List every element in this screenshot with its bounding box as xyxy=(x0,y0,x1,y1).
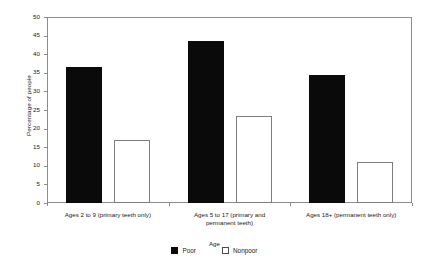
chart-legend: PoorNonpoor xyxy=(0,247,429,254)
x-axis-category-label-line: permanent teeth) xyxy=(157,219,303,227)
y-axis-tick: 40 xyxy=(0,54,47,55)
x-axis-title: Age xyxy=(0,240,429,247)
bar-poor-1 xyxy=(188,41,224,203)
y-axis-tick-mark xyxy=(44,17,47,18)
y-axis-tick-label: 45 xyxy=(33,31,40,39)
y-axis-tick-mark xyxy=(44,91,47,92)
legend-entry-nonpoor: Nonpoor xyxy=(222,247,258,254)
y-axis-tick: 20 xyxy=(0,129,47,130)
x-axis-tick-mark xyxy=(412,203,413,206)
y-axis-tick: 45 xyxy=(0,36,47,37)
bar-nonpoor-2 xyxy=(357,162,393,203)
y-axis-tick: 50 xyxy=(0,17,47,18)
bar-nonpoor-0 xyxy=(114,140,150,203)
bar-poor-2 xyxy=(309,75,345,203)
filled-square-icon xyxy=(171,247,178,254)
y-axis-tick-mark xyxy=(44,73,47,74)
y-axis-tick-label: 0 xyxy=(37,199,40,207)
y-axis-tick-mark xyxy=(44,129,47,130)
bar-poor-0 xyxy=(66,67,102,203)
y-axis-tick-mark xyxy=(44,166,47,167)
y-axis-tick-label: 5 xyxy=(37,180,40,188)
y-axis-tick-label: 35 xyxy=(33,68,40,76)
y-axis-tick-label: 40 xyxy=(33,50,40,58)
legend-entry-poor: Poor xyxy=(171,247,196,254)
y-axis-tick: 25 xyxy=(0,110,47,111)
x-axis-category-label-line: Ages 18+ (permanent teeth only) xyxy=(278,211,424,219)
x-axis-tick-mark xyxy=(47,203,48,206)
y-axis-tick-mark xyxy=(44,110,47,111)
y-axis-tick-mark xyxy=(44,36,47,37)
open-square-icon xyxy=(222,247,229,254)
legend-label: Nonpoor xyxy=(233,247,258,254)
x-axis-tick-mark xyxy=(290,203,291,206)
y-axis-tick-mark xyxy=(44,147,47,148)
y-axis-title: Percentage of people xyxy=(25,31,32,181)
y-axis-tick: 30 xyxy=(0,91,47,92)
y-axis-tick: 15 xyxy=(0,147,47,148)
y-axis-tick-label: 25 xyxy=(33,106,40,114)
y-axis-tick-label: 15 xyxy=(33,143,40,151)
y-axis-tick-mark xyxy=(44,184,47,185)
y-axis-tick: 0 xyxy=(0,203,47,204)
y-axis-tick-label: 50 xyxy=(33,13,40,21)
y-axis-tick-label: 20 xyxy=(33,124,40,132)
legend-label: Poor xyxy=(182,247,196,254)
bar-nonpoor-1 xyxy=(236,116,272,203)
y-axis-tick: 35 xyxy=(0,73,47,74)
x-axis-category-label: Ages 18+ (permanent teeth only) xyxy=(278,211,424,219)
y-axis-tick-label: 30 xyxy=(33,87,40,95)
y-axis-tick: 10 xyxy=(0,166,47,167)
y-axis-tick-mark xyxy=(44,54,47,55)
bar-chart-figure: Percentage of people 0510152025303540455… xyxy=(0,0,429,268)
y-axis-tick: 5 xyxy=(0,184,47,185)
y-axis-tick-label: 10 xyxy=(33,161,40,169)
x-axis-tick-mark xyxy=(169,203,170,206)
